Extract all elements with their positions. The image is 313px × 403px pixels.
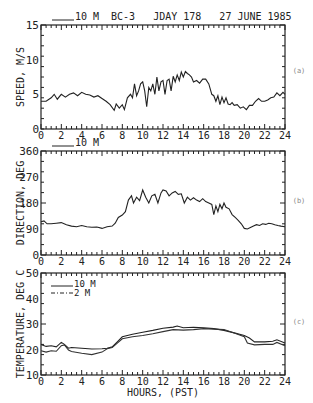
x-tick-label: 14 [177, 256, 189, 267]
x-tick-label: 6 [99, 256, 105, 267]
x-tick-label: 0 [38, 256, 44, 267]
x-tick-label: 16 [198, 256, 210, 267]
plot-frame [41, 151, 285, 255]
x-tick-label: 6 [99, 376, 105, 387]
chart-title: BC-3 JDAY 178 27 JUNE 1985 [111, 11, 292, 22]
meteorology-chart: 10 M BC-3 JDAY 178 27 JUNE 1985 05101502… [0, 0, 313, 403]
y-tick-label: 40 [26, 293, 39, 306]
x-tick-label: 24 [279, 256, 291, 267]
panel-speed: 051015024681012141618202224SPEED, M/S(a) [15, 19, 305, 141]
y-tick-label: 10 [26, 54, 39, 67]
x-tick-label: 12 [157, 376, 169, 387]
x-tick-label: 14 [177, 130, 189, 141]
x-tick-label: 12 [157, 130, 169, 141]
y-tick-label: 90 [26, 223, 39, 236]
x-tick-label: 20 [238, 376, 250, 387]
y-tick-label: 360 [19, 145, 39, 158]
x-tick-label: 8 [119, 256, 125, 267]
series-line-10m [41, 326, 285, 349]
header: 10 M BC-3 JDAY 178 27 JUNE 1985 [52, 11, 292, 22]
x-tick-label: 8 [119, 130, 125, 141]
panel-direction: 090180270360024681012141618202224DIRECTI… [15, 137, 305, 267]
series-line-10m [41, 190, 285, 229]
y-axis-label: SPEED, M/S [15, 47, 26, 107]
x-tick-label: 10 [137, 256, 149, 267]
x-tick-label: 18 [218, 256, 230, 267]
x-tick-label: 4 [79, 256, 85, 267]
y-tick-label: 20 [26, 344, 39, 357]
series-line-2m [41, 329, 285, 355]
plot-frame [41, 25, 285, 129]
x-tick-label: 12 [157, 256, 169, 267]
x-tick-label: 8 [119, 376, 125, 387]
x-tick-label: 14 [177, 376, 189, 387]
y-tick-label: 30 [26, 318, 39, 331]
x-tick-label: 0 [38, 130, 44, 141]
legend-label-10m: 10 M [75, 137, 99, 148]
x-tick-label: 10 [137, 376, 149, 387]
panel-label: (a) [293, 67, 306, 75]
x-tick-label: 0 [38, 376, 44, 387]
panel-label: (c) [293, 318, 306, 326]
x-tick-label: 24 [279, 130, 291, 141]
legend-label-2m: 2 M [74, 288, 91, 298]
panel-temperature: 1020304050024681012141618202224TEMPERATU… [15, 267, 305, 398]
x-tick-label: 16 [198, 130, 210, 141]
x-tick-label: 16 [198, 376, 210, 387]
x-tick-label: 18 [218, 130, 230, 141]
x-tick-label: 6 [99, 130, 105, 141]
series-line-10m [41, 72, 285, 111]
legend-label-10m: 10 M [75, 11, 99, 22]
x-tick-label: 10 [137, 130, 149, 141]
x-tick-label: 2 [58, 256, 64, 267]
x-tick-label: 22 [259, 376, 271, 387]
y-axis-label: TEMPERATURE, DEG C [15, 270, 26, 378]
x-tick-label: 2 [58, 130, 64, 141]
x-tick-label: 24 [279, 376, 291, 387]
panel-label: (b) [293, 197, 306, 205]
x-tick-label: 20 [238, 130, 250, 141]
y-tick-label: 15 [26, 19, 39, 32]
y-axis-label: DIRECTION, DEG [15, 161, 26, 245]
x-tick-label: 20 [238, 256, 250, 267]
x-axis-label: HOURS, (PST) [127, 387, 199, 398]
y-tick-label: 50 [26, 267, 39, 280]
x-tick-label: 18 [218, 376, 230, 387]
y-tick-label: 5 [32, 88, 39, 101]
x-tick-label: 22 [259, 256, 271, 267]
x-tick-label: 2 [58, 376, 64, 387]
x-tick-label: 22 [259, 130, 271, 141]
x-tick-label: 4 [79, 376, 85, 387]
